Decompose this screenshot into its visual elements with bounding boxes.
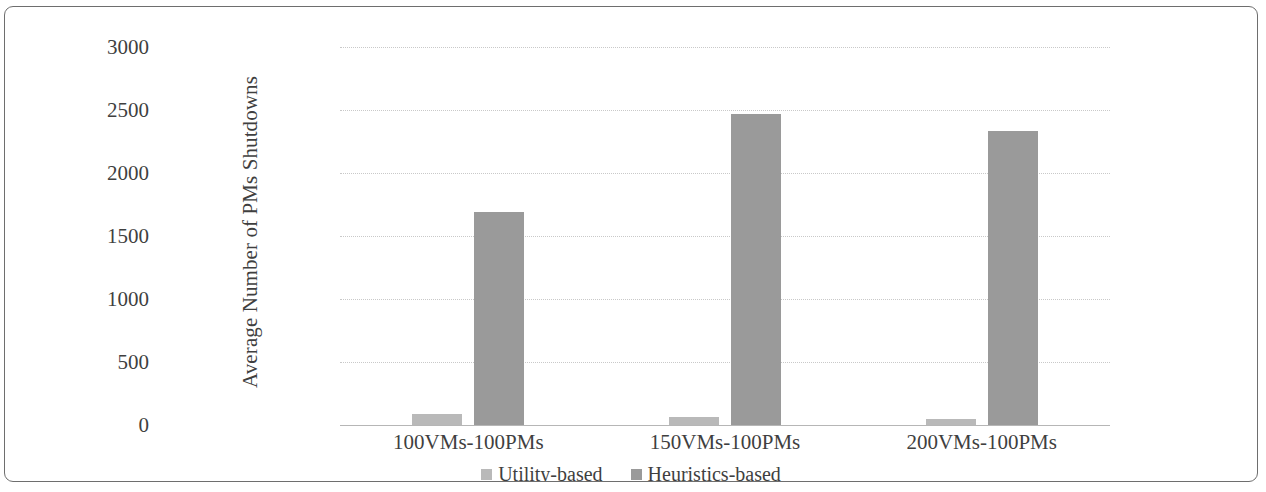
y-tick-label: 3000	[79, 35, 149, 60]
bar-heuristics-based-150VMs-100PMs	[731, 114, 781, 425]
bar-heuristics-based-100VMs-100PMs	[474, 212, 524, 425]
x-tick-label-100VMs-100PMs: 100VMs-100PMs	[348, 430, 588, 455]
y-axis-title: Average Number of PMs Shutdowns	[237, 39, 263, 425]
y-tick-label: 1500	[79, 224, 149, 249]
legend-label: Utility-based	[498, 463, 602, 482]
y-tick-label: 0	[79, 413, 149, 438]
legend-item-utility-based[interactable]: Utility-based	[481, 463, 602, 482]
gridline	[340, 425, 1110, 426]
gridline	[340, 47, 1110, 48]
legend-item-heuristics-based[interactable]: Heuristics-based	[631, 463, 781, 482]
legend-label: Heuristics-based	[648, 463, 781, 482]
chart-figure: Average Number of PMs Shutdowns 05001000…	[4, 6, 1258, 482]
x-tick-label-200VMs-100PMs: 200VMs-100PMs	[862, 430, 1102, 455]
bar-utility-based-150VMs-100PMs	[669, 417, 719, 425]
x-tick-label-150VMs-100PMs: 150VMs-100PMs	[605, 430, 845, 455]
chart-legend: Utility-basedHeuristics-based	[5, 463, 1257, 482]
y-tick-label: 2000	[79, 161, 149, 186]
y-tick-label: 500	[79, 350, 149, 375]
legend-swatch-icon	[631, 469, 642, 480]
bar-utility-based-100VMs-100PMs	[412, 414, 462, 425]
bar-heuristics-based-200VMs-100PMs	[988, 131, 1038, 425]
y-tick-label: 2500	[79, 98, 149, 123]
y-tick-label: 1000	[79, 287, 149, 312]
gridline	[340, 110, 1110, 111]
plot-area	[340, 47, 1110, 425]
bar-utility-based-200VMs-100PMs	[926, 419, 976, 425]
legend-swatch-icon	[481, 469, 492, 480]
